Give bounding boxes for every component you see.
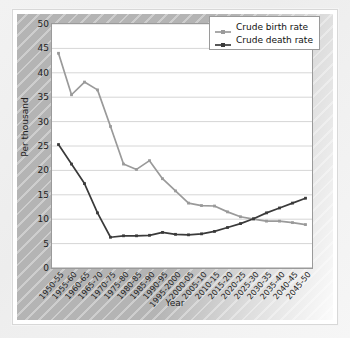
- data-point: [148, 234, 151, 237]
- y-tick-label: 40: [15, 69, 49, 78]
- data-point: [304, 223, 307, 226]
- data-point: [135, 168, 138, 171]
- data-point: [109, 125, 112, 128]
- data-point: [252, 217, 255, 220]
- data-point: [148, 159, 151, 162]
- data-point: [96, 88, 99, 91]
- data-point: [291, 202, 294, 205]
- data-point: [304, 197, 307, 200]
- y-tick-label: 45: [15, 44, 49, 53]
- data-point: [122, 163, 125, 166]
- data-point: [278, 220, 281, 223]
- legend-item-2[interactable]: Crude death rate: [214, 33, 313, 46]
- legend-marker-icon: [214, 22, 232, 32]
- gridlines: [52, 24, 312, 268]
- data-point: [226, 226, 229, 229]
- y-axis-ticks: 05101520253035404550: [13, 23, 49, 269]
- data-point: [57, 143, 60, 146]
- legend-item-1[interactable]: Crude birth rate: [214, 20, 313, 33]
- legend-label: Crude birth rate: [236, 22, 308, 32]
- y-axis-title: Per thousand: [20, 89, 30, 165]
- data-point: [187, 233, 190, 236]
- data-point: [83, 182, 86, 185]
- data-point: [187, 202, 190, 205]
- y-tick-label: 5: [15, 240, 49, 249]
- y-tick-label: 10: [15, 215, 49, 224]
- data-point: [122, 234, 125, 237]
- data-point: [174, 190, 177, 193]
- legend-label: Crude death rate: [236, 35, 313, 45]
- data-point: [213, 205, 216, 208]
- series-line-2: [59, 145, 306, 238]
- data-point: [83, 81, 86, 84]
- series-layer: [57, 52, 307, 239]
- data-point: [161, 231, 164, 234]
- data-point: [265, 211, 268, 214]
- data-point: [278, 207, 281, 210]
- x-axis-title: Year: [13, 298, 337, 308]
- y-tick-label: 15: [15, 191, 49, 200]
- data-point: [239, 215, 242, 218]
- data-point: [57, 52, 60, 55]
- data-point: [265, 220, 268, 223]
- y-tick-label: 20: [15, 166, 49, 175]
- data-point: [239, 222, 242, 225]
- data-point: [174, 233, 177, 236]
- data-point: [226, 210, 229, 213]
- data-point: [70, 93, 73, 96]
- chart-legend: Crude birth rateCrude death rate: [209, 16, 320, 50]
- legend-marker-icon: [214, 35, 232, 45]
- y-tick-label: 0: [15, 264, 49, 273]
- plot-svg: [52, 24, 312, 268]
- series-line-1: [59, 53, 306, 224]
- data-point: [200, 232, 203, 235]
- data-point: [213, 230, 216, 233]
- chart-figure: 05101520253035404550 Per thousand 1950-5…: [12, 9, 338, 325]
- data-point: [291, 221, 294, 224]
- chart-screenshot: 05101520253035404550 Per thousand 1950-5…: [0, 0, 350, 338]
- data-point: [109, 236, 112, 239]
- y-tick-label: 50: [15, 20, 49, 29]
- data-point: [161, 177, 164, 180]
- data-point: [135, 234, 138, 237]
- data-point: [70, 163, 73, 166]
- plot-area: [51, 23, 313, 269]
- data-point: [96, 211, 99, 214]
- data-point: [200, 204, 203, 207]
